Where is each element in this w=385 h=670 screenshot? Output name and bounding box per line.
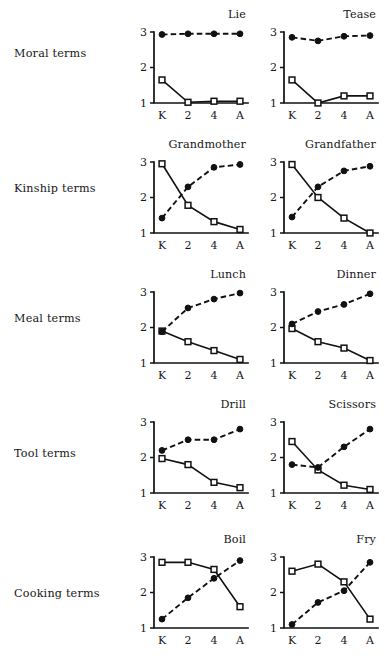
data-point-marker bbox=[315, 561, 321, 567]
data-point-marker bbox=[237, 426, 243, 432]
data-point-marker bbox=[367, 616, 373, 622]
chart-title-boil: Boil bbox=[223, 533, 246, 546]
xtick-label: K bbox=[158, 634, 167, 647]
series-line-dashed-filled-circle bbox=[292, 429, 370, 467]
axes bbox=[284, 557, 378, 628]
xtick-label: 4 bbox=[211, 634, 218, 647]
data-point-marker bbox=[367, 559, 373, 565]
ytick-label: 1 bbox=[140, 487, 147, 500]
ytick-label: 3 bbox=[270, 26, 277, 39]
data-point-marker bbox=[237, 98, 243, 104]
ytick-label: 3 bbox=[140, 416, 147, 429]
data-point-marker bbox=[185, 184, 191, 190]
xtick-label: A bbox=[235, 369, 245, 382]
plot-area: 123K24A bbox=[258, 547, 380, 651]
series-line-dashed-filled-circle bbox=[292, 562, 370, 624]
ytick-label: 2 bbox=[140, 451, 147, 464]
data-point-marker bbox=[341, 302, 347, 308]
data-point-marker bbox=[367, 33, 373, 39]
data-point-marker bbox=[211, 98, 217, 104]
xtick-label: A bbox=[365, 109, 375, 122]
xtick-label: 2 bbox=[315, 499, 322, 512]
series-line-dashed-filled-circle bbox=[162, 293, 240, 332]
chart-panel-lie: Lie123K24A bbox=[128, 8, 250, 126]
ytick-label: 2 bbox=[140, 586, 147, 599]
data-point-marker bbox=[159, 329, 165, 335]
data-point-marker bbox=[237, 227, 243, 233]
data-point-marker bbox=[211, 348, 217, 354]
plot-area: 123K24A bbox=[128, 547, 250, 651]
ytick-label: 2 bbox=[140, 191, 147, 204]
data-point-marker bbox=[367, 230, 373, 236]
ytick-label: 1 bbox=[140, 227, 147, 240]
data-point-marker bbox=[315, 184, 321, 190]
data-point-marker bbox=[159, 32, 165, 38]
xtick-label: 2 bbox=[315, 109, 322, 122]
xtick-label: 2 bbox=[315, 239, 322, 252]
xtick-label: 2 bbox=[185, 109, 192, 122]
data-point-marker bbox=[367, 358, 373, 364]
data-point-marker bbox=[315, 465, 321, 471]
plot-area: 123K24A bbox=[128, 22, 250, 126]
xtick-label: 2 bbox=[185, 369, 192, 382]
plot-area: 123K24A bbox=[128, 412, 250, 516]
chart-panel-dinner: Dinner123K24A bbox=[258, 268, 380, 386]
chart-title-lunch: Lunch bbox=[210, 268, 246, 281]
series-line-solid-open-square bbox=[292, 80, 370, 103]
data-point-marker bbox=[211, 219, 217, 225]
data-point-marker bbox=[237, 357, 243, 363]
series-line-dashed-filled-circle bbox=[292, 166, 370, 217]
ytick-label: 1 bbox=[270, 622, 277, 635]
data-point-marker bbox=[237, 558, 243, 564]
xtick-label: K bbox=[288, 634, 297, 647]
xtick-label: 2 bbox=[185, 239, 192, 252]
chart-panel-tease: Tease123K24A bbox=[258, 8, 380, 126]
data-point-marker bbox=[185, 462, 191, 468]
data-point-marker bbox=[367, 163, 373, 169]
xtick-label: 2 bbox=[185, 499, 192, 512]
series-line-dashed-filled-circle bbox=[292, 36, 370, 41]
data-point-marker bbox=[211, 575, 217, 581]
data-point-marker bbox=[289, 462, 295, 468]
data-point-marker bbox=[185, 595, 191, 601]
xtick-label: 2 bbox=[185, 634, 192, 647]
chart-panel-lunch: Lunch123K24A bbox=[128, 268, 250, 386]
plot-area: 123K24A bbox=[258, 282, 380, 386]
ytick-label: 1 bbox=[270, 357, 277, 370]
xtick-label: K bbox=[158, 499, 167, 512]
ytick-label: 2 bbox=[270, 61, 277, 74]
xtick-label: 2 bbox=[315, 634, 322, 647]
axes bbox=[154, 292, 248, 363]
xtick-label: K bbox=[158, 239, 167, 252]
chart-title-scissors: Scissors bbox=[328, 398, 376, 411]
data-point-marker bbox=[367, 426, 373, 432]
data-point-marker bbox=[237, 604, 243, 610]
series-line-dashed-filled-circle bbox=[162, 164, 240, 218]
series-line-solid-open-square bbox=[162, 459, 240, 488]
plot-area: 123K24A bbox=[258, 152, 380, 256]
data-point-marker bbox=[159, 448, 165, 454]
data-point-marker bbox=[211, 164, 217, 170]
xtick-label: 4 bbox=[341, 239, 348, 252]
row-label-moral-terms: Moral terms bbox=[14, 47, 86, 60]
series-line-solid-open-square bbox=[292, 329, 370, 361]
data-point-marker bbox=[237, 31, 243, 37]
data-point-marker bbox=[315, 339, 321, 345]
data-point-marker bbox=[315, 38, 321, 44]
plot-area: 123K24A bbox=[258, 22, 380, 126]
xtick-label: 4 bbox=[341, 109, 348, 122]
ytick-label: 3 bbox=[270, 156, 277, 169]
ytick-label: 3 bbox=[270, 551, 277, 564]
data-point-marker bbox=[289, 622, 295, 628]
data-point-marker bbox=[289, 321, 295, 327]
data-point-marker bbox=[341, 345, 347, 351]
xtick-label: K bbox=[158, 369, 167, 382]
data-point-marker bbox=[341, 588, 347, 594]
chart-title-lie: Lie bbox=[228, 8, 246, 21]
ytick-label: 2 bbox=[270, 191, 277, 204]
chart-title-grandmother: Grandmother bbox=[169, 138, 246, 151]
data-point-marker bbox=[211, 296, 217, 302]
data-point-marker bbox=[289, 77, 295, 83]
series-line-solid-open-square bbox=[292, 564, 370, 619]
xtick-label: A bbox=[235, 239, 245, 252]
